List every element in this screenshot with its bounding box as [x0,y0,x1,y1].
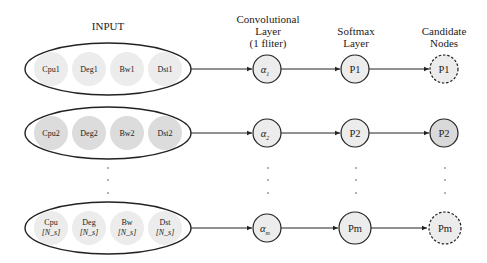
svg-text:Cpu1: Cpu1 [42,65,59,74]
ellipsis-dots [107,167,446,194]
svg-text:Deg2: Deg2 [80,129,97,138]
svg-text:(1 fliter): (1 fliter) [250,37,287,50]
input-header: INPUT [92,20,125,32]
row-2: Cpu2 Deg2 Bw2 Dst2 α2 P2 P2 [25,107,458,159]
svg-text:Deg: Deg [82,218,95,227]
svg-text:Pm: Pm [438,223,452,234]
conv-node-1 [253,55,281,83]
svg-text:Nodes: Nodes [430,37,458,49]
svg-text:Dst1: Dst1 [157,65,172,74]
row-1: Cpu1 Deg1 Bw1 Dst1 α1 P1 P1 [25,43,458,95]
row-m: Cpu [N_s] Deg [N_s] Bw [N_s] Dst [N_s] α… [25,202,461,254]
candidate-nodes-header: Candidate Nodes [422,25,467,49]
conv-layer-header: Convolutional Layer (1 fliter) [237,13,300,50]
svg-text:Dst2: Dst2 [157,129,172,138]
svg-text:P2: P2 [349,128,360,139]
svg-text:Dst: Dst [159,218,171,227]
svg-text:P1: P1 [438,64,449,75]
svg-text:Candidate: Candidate [422,25,467,37]
svg-text:P2: P2 [438,128,449,139]
svg-text:Softmax: Softmax [337,25,375,37]
svg-text:[N_s]: [N_s] [118,228,137,237]
neural-network-diagram: INPUT Convolutional Layer (1 fliter) Sof… [0,0,487,263]
svg-text:[N_s]: [N_s] [80,228,99,237]
svg-text:Bw1: Bw1 [119,65,134,74]
svg-text:Deg1: Deg1 [80,65,97,74]
svg-text:Bw2: Bw2 [119,129,134,138]
svg-text:Cpu: Cpu [44,218,57,227]
svg-text:[N_s]: [N_s] [42,228,61,237]
softmax-layer-header: Softmax Layer [337,25,375,49]
svg-text:P1: P1 [349,64,360,75]
svg-text:Pm: Pm [348,223,362,234]
svg-text:[N_s]: [N_s] [156,228,175,237]
svg-text:Layer: Layer [343,37,369,49]
svg-text:Layer: Layer [255,25,281,37]
svg-text:Bw: Bw [121,218,132,227]
svg-text:Convolutional: Convolutional [237,13,300,25]
conv-node-2 [253,119,281,147]
svg-text:Cpu2: Cpu2 [42,129,59,138]
conv-node-m [253,214,281,242]
